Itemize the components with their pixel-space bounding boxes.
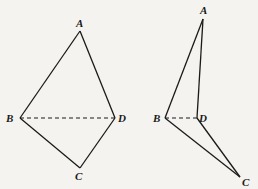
edge-CD	[80, 118, 115, 168]
vertex-label-C: C	[242, 176, 250, 188]
edge-BC	[165, 118, 240, 177]
vertex-label-B: B	[152, 112, 160, 124]
left-figure: A B C D	[5, 17, 126, 182]
vertex-label-C: C	[75, 170, 83, 182]
vertex-label-D: D	[198, 112, 207, 124]
vertex-label-A: A	[75, 17, 83, 29]
edge-AB	[20, 31, 80, 118]
right-figure: A B C D	[152, 4, 250, 188]
edge-AD	[80, 31, 115, 118]
vertex-label-A: A	[199, 4, 207, 16]
vertex-label-B: B	[5, 112, 13, 124]
vertex-label-D: D	[117, 112, 126, 124]
diagram-canvas: A B C D A B C D	[0, 0, 258, 189]
geometry-figures: A B C D A B C D	[0, 0, 258, 189]
edge-BC	[20, 118, 80, 168]
